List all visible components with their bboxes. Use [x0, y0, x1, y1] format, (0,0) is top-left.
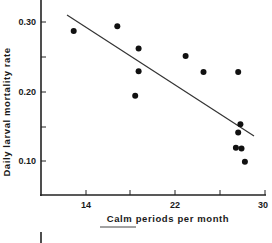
- data-point: [136, 68, 142, 74]
- data-point: [132, 93, 138, 99]
- data-points: [71, 23, 248, 165]
- y-tick-label: 0.20: [18, 87, 36, 97]
- y-tick-label: 0.30: [18, 17, 36, 27]
- data-point: [242, 159, 248, 165]
- y-tick-label: 0.10: [18, 156, 36, 166]
- scatter-chart: 0.30 0.20 0.10 14 22 30 Calm periods per…: [0, 0, 272, 243]
- x-tick-label: 22: [170, 200, 180, 210]
- data-point: [114, 23, 120, 29]
- regression-line: [67, 15, 254, 136]
- data-point: [71, 28, 77, 34]
- data-point: [235, 130, 241, 136]
- data-point: [183, 53, 189, 59]
- x-tick-label: 14: [81, 200, 91, 210]
- data-point: [201, 69, 207, 75]
- data-point: [136, 45, 142, 51]
- data-point: [235, 69, 241, 75]
- y-axis-label: Daily larval mortality rate: [1, 47, 12, 176]
- x-axis-label: Calm periods per month: [107, 213, 229, 224]
- x-tick-label: 30: [258, 200, 268, 210]
- data-point: [233, 145, 239, 151]
- data-point: [237, 121, 243, 127]
- data-point: [239, 146, 245, 152]
